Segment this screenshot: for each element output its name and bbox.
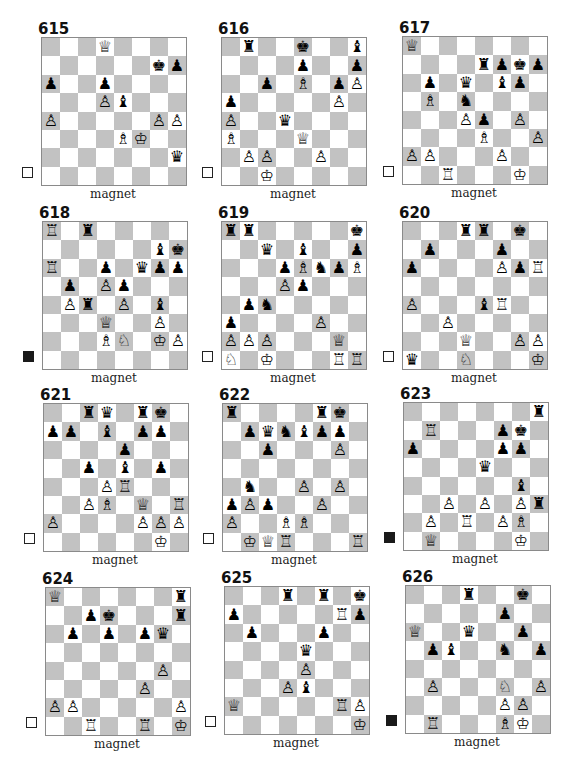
white-queen-icon: ♕ (405, 38, 419, 54)
square-e3: ♕ (294, 130, 312, 148)
square-h6 (168, 75, 186, 93)
square-e3: ♗ (114, 130, 132, 148)
chess-diagram-620: 620♜♜♚♟♟♟♙♟♖♙♝♖♙♕♙♙♛♘♔magnet (402, 221, 568, 411)
square-g6: ♛ (154, 625, 172, 643)
square-f2 (133, 332, 151, 350)
black-pawn-icon: ♟ (296, 58, 310, 74)
square-e6 (297, 624, 315, 642)
white-bishop-icon: ♗ (279, 515, 293, 531)
square-g2 (150, 148, 168, 166)
black-rook-icon: ♜ (242, 223, 256, 239)
black-pawn-icon: ♟ (227, 607, 241, 623)
square-b7 (240, 240, 258, 258)
square-a3 (43, 314, 61, 332)
black-rook-icon: ♜ (242, 39, 256, 55)
square-c8 (259, 404, 277, 422)
square-c1: ♖ (439, 166, 457, 184)
square-d8: ♕ (96, 38, 114, 56)
square-d6: ♟ (100, 625, 118, 643)
square-c7 (442, 604, 460, 622)
square-a8 (404, 403, 422, 421)
black-pawn-icon: ♟ (333, 424, 347, 440)
square-h3: ♙ (529, 129, 547, 147)
square-c1: ♕ (259, 533, 277, 551)
square-g8 (333, 587, 351, 605)
square-h6 (530, 440, 548, 458)
square-c5 (78, 93, 96, 111)
black-king-icon: ♚ (513, 223, 527, 239)
white-pawn-icon: ♙ (63, 297, 77, 313)
square-c1: ♔ (258, 351, 276, 369)
diagram-number: 617 (399, 20, 430, 36)
square-f4 (312, 112, 330, 130)
square-f3 (493, 129, 511, 147)
white-rook-icon: ♖ (279, 534, 293, 550)
black-king-icon: ♚ (152, 58, 166, 74)
square-h6: ♙ (348, 75, 366, 93)
square-g8: ♚ (514, 586, 532, 604)
square-h2 (349, 514, 367, 532)
square-g2: ♕ (330, 332, 348, 350)
square-h1 (168, 167, 186, 185)
square-h7: ♟ (348, 56, 366, 74)
square-a5 (222, 277, 240, 295)
square-f2 (312, 332, 330, 350)
square-h3 (168, 130, 186, 148)
white-rook-icon: ♖ (335, 607, 349, 623)
square-h1 (530, 532, 548, 550)
black-pawn-icon: ♟ (98, 76, 112, 92)
square-b3 (60, 130, 78, 148)
diagram-number: 623 (400, 386, 431, 402)
black-pawn-icon: ♟ (154, 460, 168, 476)
square-h2: ♙ (351, 697, 369, 715)
square-a8 (406, 586, 424, 604)
square-d7 (458, 421, 476, 439)
square-c7 (261, 605, 279, 623)
square-c8 (440, 403, 458, 421)
chess-diagram-622: 622♜♜♚♟♛♞♝♟♟♟♙♞♙♙♟♙♟♙♙♗♗♔♕♖♖magnet (222, 403, 412, 593)
square-a2: ♙ (46, 698, 64, 716)
square-g6: ♟ (512, 440, 530, 458)
square-f4 (315, 661, 333, 679)
black-pawn-icon: ♟ (332, 260, 346, 276)
square-e1 (297, 716, 315, 734)
white-bishop-icon: ♗ (296, 76, 310, 92)
square-g1 (331, 533, 349, 551)
square-f1 (312, 351, 330, 369)
square-d3: ♗ (98, 496, 116, 514)
square-g5 (511, 277, 529, 295)
diagram-caption: magnet (224, 736, 368, 750)
square-b4 (64, 662, 82, 680)
square-g7: ♖ (333, 605, 351, 623)
square-b6 (240, 259, 258, 277)
square-b7 (421, 55, 439, 73)
square-e7: ♜ (475, 55, 493, 73)
square-g5: ♟ (152, 459, 170, 477)
square-d7 (276, 240, 294, 258)
square-e1 (114, 167, 132, 185)
square-c2 (80, 514, 98, 532)
square-a6 (222, 259, 240, 277)
diagram-caption: magnet (403, 552, 547, 566)
square-g7: ♚ (511, 55, 529, 73)
square-b2: ♙ (64, 698, 82, 716)
square-b8 (61, 222, 79, 240)
square-a2: ♙ (222, 332, 240, 350)
white-knight-icon: ♘ (224, 352, 238, 368)
square-e3 (116, 496, 134, 514)
square-e7 (475, 240, 493, 258)
square-b1 (61, 351, 79, 369)
square-c8 (442, 586, 460, 604)
square-b4: ♞ (241, 478, 259, 496)
square-f4 (136, 662, 154, 680)
white-rook-icon: ♖ (350, 352, 364, 368)
diagram-caption: magnet (43, 553, 187, 567)
black-pawn-icon: ♟ (513, 75, 527, 91)
square-f5 (134, 459, 152, 477)
black-queen-icon: ♛ (156, 626, 170, 642)
black-bishop-icon: ♝ (153, 297, 167, 313)
square-g3 (330, 130, 348, 148)
square-h2: ♙ (170, 514, 188, 532)
square-c8 (261, 587, 279, 605)
black-bishop-icon: ♝ (297, 424, 311, 440)
